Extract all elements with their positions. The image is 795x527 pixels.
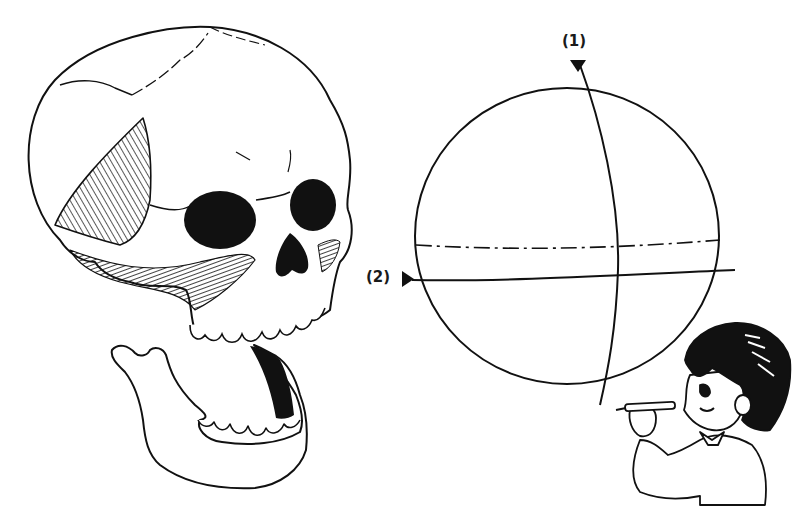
- character-boy: [616, 323, 790, 505]
- illustration-canvas: (1) (2): [0, 0, 795, 527]
- axis1-arrow-icon: [570, 60, 586, 72]
- sphere-outline: [415, 88, 719, 384]
- axis2-line: [412, 270, 735, 280]
- axis1-line: [580, 65, 618, 405]
- skull: [29, 27, 352, 335]
- center-dashdot-line: [416, 240, 720, 248]
- skull-eye-socket-left: [184, 191, 256, 249]
- axis2-arrow-icon: [402, 271, 414, 287]
- skull-eye-socket-right: [290, 179, 336, 231]
- mandible: [112, 345, 307, 488]
- drawing: [0, 0, 795, 527]
- axis2-label: (2): [366, 268, 390, 286]
- axis1-label: (1): [562, 32, 586, 50]
